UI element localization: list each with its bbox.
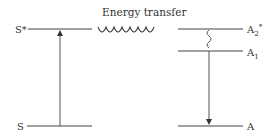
energy-transfer-wave-icon [98, 27, 154, 32]
label-acceptor-excited2: A2* [246, 23, 263, 38]
nonradiative-relaxation-icon [207, 30, 211, 48]
label-acceptor-ground: A [246, 121, 255, 132]
label-donor-ground: S [17, 121, 24, 132]
label-acceptor-excited1: A1 [246, 47, 259, 61]
diagram-title: Energy transfer [102, 6, 187, 18]
label-donor-excited: S* [15, 24, 27, 35]
energy-transfer-diagram: Energy transfer S* S A2* A1 A [0, 0, 273, 138]
